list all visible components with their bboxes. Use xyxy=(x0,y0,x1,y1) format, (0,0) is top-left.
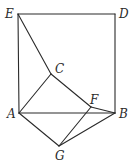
label-F: F xyxy=(89,93,99,107)
label-B: B xyxy=(118,107,128,121)
segment-EC xyxy=(18,14,51,74)
segment-EA xyxy=(18,14,19,113)
segment-AG xyxy=(19,113,59,146)
label-D: D xyxy=(118,7,129,21)
geometry-diagram: E D C A B F G xyxy=(0,0,136,168)
segment-GB xyxy=(59,113,115,146)
label-A: A xyxy=(6,107,16,121)
label-E: E xyxy=(4,7,14,21)
segment-CF xyxy=(51,74,91,107)
segments xyxy=(18,14,115,146)
segment-AC xyxy=(19,74,51,113)
label-C: C xyxy=(55,62,64,76)
point-labels: E D C A B F G xyxy=(4,7,129,163)
segment-FB xyxy=(91,107,115,113)
label-G: G xyxy=(55,149,65,163)
